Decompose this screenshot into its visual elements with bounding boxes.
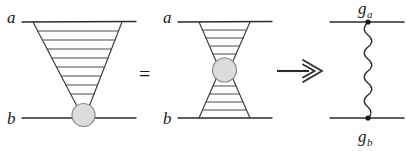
implies-arrow-group bbox=[277, 60, 322, 82]
right-label-g-a-base: g bbox=[358, 0, 367, 18]
equals-sign-group: = bbox=[139, 63, 150, 85]
diagram-left-group: a b bbox=[7, 8, 136, 128]
figure-container: a b = bbox=[0, 0, 407, 151]
left-top-rail bbox=[22, 22, 136, 23]
right-bottom-vertex-dot bbox=[365, 115, 370, 120]
left-label-a: a bbox=[7, 8, 16, 27]
middle-interaction-blob bbox=[213, 58, 237, 82]
middle-lower-rungs bbox=[202, 86, 246, 110]
right-top-vertex-dot bbox=[365, 19, 370, 24]
left-interaction-blob bbox=[72, 104, 95, 127]
right-bottom-coupling-label: g b bbox=[358, 127, 373, 148]
middle-label-b: b bbox=[163, 109, 172, 128]
middle-label-a: a bbox=[163, 8, 172, 27]
right-label-g-a-sub: a bbox=[367, 8, 373, 20]
diagram-middle-group: a b bbox=[163, 8, 272, 128]
middle-upper-left-side bbox=[199, 22, 216, 61]
equals-sign: = bbox=[139, 63, 150, 85]
middle-upper-rungs bbox=[202, 30, 246, 54]
physics-diagram-svg: a b = bbox=[0, 0, 407, 151]
right-label-g-b-base: g bbox=[358, 127, 367, 146]
wavy-exchange-line bbox=[364, 22, 372, 118]
middle-upper-right-side bbox=[233, 22, 250, 61]
left-label-b: b bbox=[7, 109, 16, 128]
middle-top-rail bbox=[178, 22, 272, 23]
middle-lower-right-side bbox=[233, 79, 250, 118]
middle-lower-left-side bbox=[199, 79, 216, 118]
right-top-coupling-label: g a bbox=[358, 0, 373, 20]
diagram-right-group: g a g b bbox=[330, 0, 404, 148]
right-label-g-b-sub: b bbox=[367, 136, 373, 148]
